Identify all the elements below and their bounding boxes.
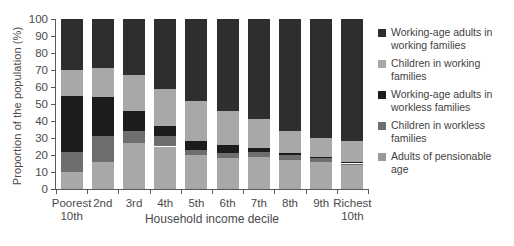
bar-segment[interactable] bbox=[123, 19, 145, 75]
x-tick bbox=[56, 189, 57, 194]
bar-segment[interactable] bbox=[185, 141, 207, 150]
bar-column[interactable] bbox=[61, 19, 83, 189]
y-tick bbox=[51, 121, 56, 122]
legend-item[interactable]: Children in worklessfamilies bbox=[378, 119, 512, 144]
bar-segment[interactable] bbox=[341, 19, 363, 141]
y-tick-label: 20 bbox=[18, 149, 48, 161]
legend-label-line: Working-age adults in bbox=[391, 26, 492, 39]
bar-segment[interactable] bbox=[217, 153, 239, 158]
bar-segment[interactable] bbox=[185, 101, 207, 142]
bar-segment[interactable] bbox=[61, 70, 83, 96]
bar-segment[interactable] bbox=[154, 136, 176, 146]
bar-segment[interactable] bbox=[310, 157, 332, 159]
y-tick-label: 40 bbox=[18, 115, 48, 127]
bar-column[interactable] bbox=[92, 19, 114, 189]
bar-segment[interactable] bbox=[310, 158, 332, 161]
legend-label-line: Adults of pensionable bbox=[391, 150, 491, 163]
legend-item[interactable]: Adults of pensionableage bbox=[378, 150, 512, 175]
bar-segment[interactable] bbox=[279, 153, 301, 155]
bar-column[interactable] bbox=[279, 19, 301, 189]
legend-label: Working-age adults inworkless families bbox=[391, 88, 492, 113]
legend-swatch-icon bbox=[378, 122, 386, 130]
legend-label-line: working families bbox=[391, 39, 492, 52]
bar-segment[interactable] bbox=[310, 162, 332, 189]
y-tick bbox=[51, 155, 56, 156]
y-tick bbox=[51, 53, 56, 54]
bar-segment[interactable] bbox=[61, 19, 83, 70]
legend-swatch-icon bbox=[378, 153, 386, 161]
bar-segment[interactable] bbox=[123, 111, 145, 131]
bar-segment[interactable] bbox=[185, 19, 207, 101]
y-tick bbox=[51, 36, 56, 37]
legend-item[interactable]: Children in workingfamilies bbox=[378, 57, 512, 82]
bar-segment[interactable] bbox=[154, 19, 176, 89]
bar-segment[interactable] bbox=[279, 160, 301, 189]
bar-segment[interactable] bbox=[61, 172, 83, 189]
bar-segment[interactable] bbox=[341, 162, 363, 164]
x-tick bbox=[306, 189, 307, 194]
bar-segment[interactable] bbox=[217, 145, 239, 154]
x-tick-label-line: Richest bbox=[322, 197, 382, 210]
bar-segment[interactable] bbox=[217, 19, 239, 111]
bar-segment[interactable] bbox=[154, 126, 176, 136]
bar-segment[interactable] bbox=[154, 147, 176, 190]
bar-segment[interactable] bbox=[92, 162, 114, 189]
bar-column[interactable] bbox=[341, 19, 363, 189]
y-tick-label: 70 bbox=[18, 64, 48, 76]
y-tick bbox=[51, 70, 56, 71]
legend-label-line: workless families bbox=[391, 101, 492, 114]
bar-segment[interactable] bbox=[341, 164, 363, 166]
bar-segment[interactable] bbox=[61, 152, 83, 172]
legend-label-line: Working-age adults in bbox=[391, 88, 492, 101]
bar-segment[interactable] bbox=[185, 155, 207, 189]
bar-segment[interactable] bbox=[92, 136, 114, 162]
chart-container: Proportion of the population (%) 0102030… bbox=[0, 0, 514, 246]
y-tick bbox=[51, 19, 56, 20]
legend-swatch-icon bbox=[378, 29, 386, 37]
bar-segment[interactable] bbox=[310, 138, 332, 157]
bar-segment[interactable] bbox=[248, 157, 270, 189]
bar-column[interactable] bbox=[185, 19, 207, 189]
y-tick-label: 90 bbox=[18, 30, 48, 42]
bar-segment[interactable] bbox=[341, 165, 363, 189]
legend-label-line: families bbox=[391, 132, 485, 145]
bar-segment[interactable] bbox=[185, 150, 207, 155]
bar-segment[interactable] bbox=[217, 111, 239, 145]
bar-column[interactable] bbox=[310, 19, 332, 189]
bar-column[interactable] bbox=[123, 19, 145, 189]
legend-label: Children in workingfamilies bbox=[391, 57, 480, 82]
bar-segment[interactable] bbox=[248, 152, 270, 157]
bar-segment[interactable] bbox=[123, 75, 145, 111]
bar-segment[interactable] bbox=[279, 19, 301, 131]
x-axis-title: Household income decile bbox=[56, 212, 368, 226]
bar-segment[interactable] bbox=[154, 89, 176, 126]
bar-column[interactable] bbox=[154, 19, 176, 189]
bar-segment[interactable] bbox=[341, 141, 363, 161]
bar-column[interactable] bbox=[248, 19, 270, 189]
y-tick-label: 80 bbox=[18, 47, 48, 59]
legend-item[interactable]: Working-age adults inworking families bbox=[378, 26, 512, 51]
bar-segment[interactable] bbox=[61, 96, 83, 152]
bar-segment[interactable] bbox=[217, 158, 239, 189]
legend-label: Working-age adults inworking families bbox=[391, 26, 492, 51]
bar-segment[interactable] bbox=[92, 97, 114, 136]
y-tick-label: 30 bbox=[18, 132, 48, 144]
y-tick bbox=[51, 87, 56, 88]
bar-segment[interactable] bbox=[92, 19, 114, 68]
bar-segment[interactable] bbox=[279, 155, 301, 160]
bar-segment[interactable] bbox=[123, 143, 145, 189]
bar-segment[interactable] bbox=[123, 131, 145, 143]
legend-item[interactable]: Working-age adults inworkless families bbox=[378, 88, 512, 113]
bar-segment[interactable] bbox=[248, 119, 270, 148]
y-tick bbox=[51, 104, 56, 105]
bar-segment[interactable] bbox=[248, 19, 270, 119]
bar-segment[interactable] bbox=[248, 148, 270, 151]
legend-label: Adults of pensionableage bbox=[391, 150, 491, 175]
bar-segment[interactable] bbox=[92, 68, 114, 97]
y-tick bbox=[51, 172, 56, 173]
x-tick bbox=[243, 189, 244, 194]
bar-segment[interactable] bbox=[279, 131, 301, 153]
bar-column[interactable] bbox=[217, 19, 239, 189]
bar-segment[interactable] bbox=[310, 19, 332, 138]
y-tick-label: 100 bbox=[18, 13, 48, 25]
